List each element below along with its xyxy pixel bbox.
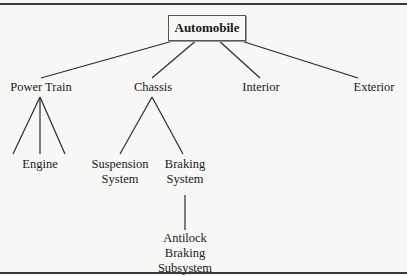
- node-label-line: Braking: [153, 246, 217, 261]
- edge-chassis-braking: [152, 97, 183, 154]
- root-node-automobile: Automobile: [168, 15, 246, 41]
- node-exterior: Exterior: [348, 80, 400, 95]
- edge-powertrain-left: [13, 97, 40, 154]
- bottom-rule: [0, 272, 407, 274]
- node-braking-system: Braking System: [162, 157, 208, 187]
- node-suspension-system: Suspension System: [88, 157, 152, 187]
- node-label-line: System: [88, 172, 152, 187]
- edge-chassis-suspension: [120, 97, 152, 154]
- node-chassis: Chassis: [130, 80, 176, 95]
- node-label-line: Antilock: [153, 231, 217, 246]
- node-label-line: Suspension: [88, 157, 152, 172]
- node-label: Power Train: [10, 80, 71, 94]
- node-label: Interior: [242, 80, 279, 94]
- node-label: Engine: [22, 157, 57, 171]
- node-label: Exterior: [354, 80, 395, 94]
- node-antilock-braking-subsystem: Antilock Braking Subsystem: [153, 231, 217, 276]
- node-engine: Engine: [20, 157, 60, 172]
- node-label: Chassis: [134, 80, 172, 94]
- node-power-train: Power Train: [9, 80, 73, 95]
- node-label-line: System: [162, 172, 208, 187]
- node-interior: Interior: [236, 80, 286, 95]
- edge-powertrain-right: [40, 97, 65, 154]
- root-label: Automobile: [175, 20, 240, 36]
- node-label-line: Braking: [162, 157, 208, 172]
